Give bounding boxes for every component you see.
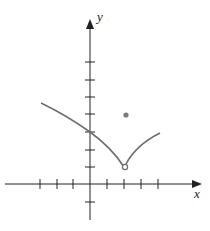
y-axis-label: y bbox=[97, 9, 103, 25]
right-branch-curve bbox=[126, 133, 160, 164]
open-circle-hole bbox=[122, 164, 127, 169]
left-branch-curve bbox=[41, 103, 124, 167]
x-axis bbox=[5, 179, 202, 189]
graph-canvas bbox=[0, 0, 210, 231]
x-axis-label: x bbox=[194, 186, 200, 202]
filled-point bbox=[123, 112, 128, 117]
y-axis bbox=[85, 19, 95, 220]
y-axis-arrow-icon bbox=[86, 19, 94, 29]
